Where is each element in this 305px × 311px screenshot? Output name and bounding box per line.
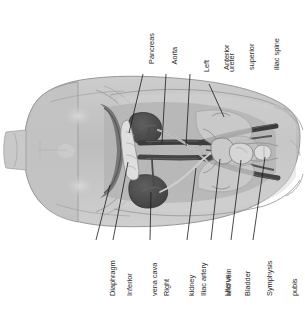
anatomy-figure-canvas: Pancreas Aorta Left ureter Anterior supe… [0, 0, 305, 311]
label-aorta: Aorta [163, 47, 188, 72]
label-aorta-line1: Aorta [170, 47, 179, 64]
label-symphysis-pubis: Symphysis pubis [250, 261, 305, 296]
label-symphysis-line2: pubis [291, 261, 299, 296]
label-pancreas-line1: Pancreas [147, 33, 156, 64]
label-anterior-superior-iliac-spine: Anterior superior iliac spine [207, 38, 297, 70]
label-asis-line2: superior [248, 38, 256, 70]
label-asis-line3: iliac spine [273, 38, 281, 70]
label-symphysis-line1: Symphysis [266, 261, 274, 296]
label-ivc-line1: Inferior [126, 263, 134, 296]
label-pancreas: Pancreas [140, 33, 165, 72]
label-right-kidney-line1: Right [163, 275, 171, 296]
bone-symphysis-pubis [254, 145, 271, 160]
label-asis-line1: Anterior [223, 38, 231, 70]
